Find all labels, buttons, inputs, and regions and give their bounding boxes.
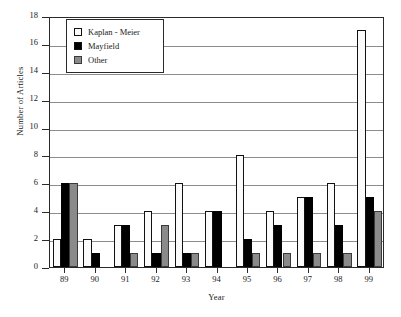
y-tick-mark [42, 17, 49, 18]
bar [244, 239, 252, 267]
x-axis-ticks: 8990919293949596979899 [49, 268, 384, 294]
bar [161, 225, 169, 267]
y-tick-mark [42, 268, 49, 269]
x-tick-mark [247, 268, 248, 273]
legend-swatch-icon [74, 56, 82, 64]
legend-item: Kaplan - Meier [74, 25, 157, 39]
y-tick-mark [42, 240, 49, 241]
x-tick-label: 99 [355, 275, 383, 284]
bar [152, 253, 160, 267]
x-tick-mark [64, 268, 65, 273]
bar [83, 239, 91, 267]
bar [213, 211, 221, 267]
legend-label: Mayfield [88, 42, 119, 51]
y-tick-mark [42, 129, 49, 130]
x-tick-label: 95 [233, 275, 261, 284]
bar [335, 225, 343, 267]
bar [183, 253, 191, 267]
legend-swatch-icon [74, 42, 82, 50]
x-tick-label: 98 [324, 275, 352, 284]
x-tick-label: 94 [203, 275, 231, 284]
bar [283, 253, 291, 267]
legend-label: Other [88, 56, 107, 65]
x-tick-mark [156, 268, 157, 273]
bar [313, 253, 321, 267]
y-tick-label: 6 [34, 178, 38, 187]
bar [252, 253, 260, 267]
bar [175, 183, 183, 267]
x-tick-label: 92 [142, 275, 170, 284]
x-tick-label: 90 [81, 275, 109, 284]
y-tick-label: 12 [30, 94, 39, 103]
bar [205, 211, 213, 267]
legend-item: Mayfield [74, 39, 157, 53]
y-tick-label: 2 [34, 234, 38, 243]
y-tick-label: 0 [34, 262, 38, 271]
bar [266, 211, 274, 267]
y-tick-mark [42, 184, 49, 185]
bar [191, 253, 199, 267]
y-tick-label: 18 [30, 11, 39, 20]
bar [343, 253, 351, 267]
bar [114, 225, 122, 267]
x-axis-title: Year [49, 292, 384, 302]
y-tick-label: 10 [30, 122, 39, 131]
x-tick-mark [369, 268, 370, 273]
y-tick-label: 16 [30, 38, 39, 47]
x-tick-label: 96 [263, 275, 291, 284]
x-tick-mark [217, 268, 218, 273]
legend-swatch-icon [74, 28, 82, 36]
bar [130, 253, 138, 267]
bar [53, 239, 61, 267]
x-tick-mark [338, 268, 339, 273]
bar [69, 183, 77, 267]
x-tick-mark [186, 268, 187, 273]
bar [274, 225, 282, 267]
bar [236, 155, 244, 267]
y-tick-label: 14 [30, 66, 39, 75]
x-tick-mark [308, 268, 309, 273]
bar [374, 211, 382, 267]
x-tick-label: 97 [294, 275, 322, 284]
x-tick-mark [95, 268, 96, 273]
bar [144, 211, 152, 267]
bar [92, 253, 100, 267]
x-tick-label: 89 [50, 275, 78, 284]
y-tick-label: 8 [34, 150, 38, 159]
bar [305, 197, 313, 267]
y-tick-label: 4 [34, 206, 38, 215]
bar [297, 197, 305, 267]
legend: Kaplan - MeierMayfieldOther [66, 19, 164, 73]
bar-chart: Number of Articles 024681012141618 89909… [0, 0, 401, 317]
y-tick-mark [42, 212, 49, 213]
y-axis-ticks: 024681012141618 [0, 17, 49, 268]
y-tick-mark [42, 156, 49, 157]
y-tick-mark [42, 101, 49, 102]
x-tick-mark [125, 268, 126, 273]
legend-item: Other [74, 53, 157, 67]
bar [61, 183, 69, 267]
y-tick-mark [42, 73, 49, 74]
bar [122, 225, 130, 267]
y-tick-mark [42, 45, 49, 46]
x-tick-label: 91 [111, 275, 139, 284]
x-tick-label: 93 [172, 275, 200, 284]
bar [357, 30, 365, 267]
legend-label: Kaplan - Meier [88, 28, 140, 37]
x-tick-mark [277, 268, 278, 273]
bar [327, 183, 335, 267]
bar [366, 197, 374, 267]
